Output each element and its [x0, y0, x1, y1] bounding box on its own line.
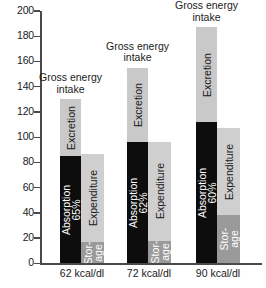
intake-bar[interactable]: ExcretionAbsorption60% [196, 27, 217, 263]
y-tick-label-text: 0 [4, 257, 34, 268]
segment-label-name: Expenditure [87, 170, 98, 226]
segment-label: Stor-age [150, 241, 170, 264]
x-tick-label: 62 kcal/dl [48, 268, 116, 279]
y-tick-mark [34, 111, 40, 112]
segment-excretion[interactable]: Excretion [127, 68, 148, 142]
y-tick-label: 60 [0, 182, 34, 193]
segment-absorption[interactable]: Absorption65% [60, 156, 81, 263]
y-tick-mark [34, 137, 40, 138]
group-title: Gross energyintake [165, 0, 249, 23]
y-tick-label-text: 60 [4, 182, 34, 193]
segment-label-name: Absorption [61, 185, 71, 235]
segment-excretion[interactable]: Excretion [196, 27, 217, 122]
y-tick-mark [34, 10, 40, 11]
y-tick-label-text: 20 [4, 232, 34, 243]
x-tick-label: 72 kcal/dl [115, 268, 183, 279]
segment-absorption[interactable]: Absorption60% [196, 122, 217, 263]
energy-balance-chart: 200180160140120100806040200 ExcretionAbs… [0, 0, 266, 288]
y-tick-label-text: 200 [4, 5, 34, 16]
x-tick-label: 90 kcal/dl [184, 268, 252, 279]
y-tick-mark [34, 187, 40, 188]
intake-bar[interactable]: ExcretionAbsorption62% [127, 68, 148, 264]
bar-group: ExcretionAbsorption65%ExpenditureStor-ag… [60, 99, 104, 263]
segment-excretion[interactable]: Excretion [60, 99, 81, 156]
segment-label: Stor-age [219, 228, 239, 251]
segment-label-name: Absorption [197, 168, 207, 218]
y-tick-label: 80 [0, 156, 34, 167]
segment-label-percent: 60% [207, 168, 217, 218]
segment-storage[interactable]: Stor-age [148, 241, 171, 264]
segment-expenditure[interactable]: Expenditure [148, 142, 171, 240]
segment-label: Expenditure [154, 163, 165, 219]
segment-label-line1: Stor- [150, 241, 160, 264]
segment-label-name: Excretion [65, 106, 76, 150]
bar-group: ExcretionAbsorption62%ExpenditureStor-ag… [127, 68, 171, 264]
segment-label: Absorption65% [61, 185, 81, 235]
y-tick-label-text: 120 [4, 106, 34, 117]
x-axis-line [40, 263, 262, 265]
y-tick-label: 20 [0, 232, 34, 243]
y-tick-label-text: 160 [4, 55, 34, 66]
y-tick-mark [34, 237, 40, 238]
segment-label-name: Excretion [201, 53, 212, 97]
segment-label: Excretion [132, 83, 143, 127]
segment-label-line2: age [229, 228, 239, 251]
y-tick-mark [34, 36, 40, 37]
segment-label-line2: age [93, 242, 103, 263]
group-title: Gross energyintake [29, 72, 113, 95]
y-tick-label: 0 [0, 257, 34, 268]
segment-label: Expenditure [223, 144, 234, 200]
segment-label-line1: Stor- [83, 242, 93, 263]
y-tick-label-text: 100 [4, 131, 34, 142]
segment-label-name: Expenditure [223, 144, 234, 200]
segment-label-percent: 65% [71, 185, 81, 235]
y-axis-line [40, 11, 42, 264]
y-tick-mark [34, 212, 40, 213]
segment-label: Excretion [65, 106, 76, 150]
y-tick-mark [34, 61, 40, 62]
y-tick-mark [34, 162, 40, 163]
segment-storage[interactable]: Stor-age [217, 215, 240, 263]
group-title-line2: intake [165, 12, 249, 24]
segment-label-name: Excretion [132, 83, 143, 127]
segment-label-line1: Stor- [219, 228, 229, 251]
segment-expenditure[interactable]: Expenditure [81, 154, 104, 242]
segment-label: Expenditure [87, 170, 98, 226]
intake-bar[interactable]: ExcretionAbsorption65% [60, 99, 81, 263]
y-tick-label: 200 [0, 5, 34, 16]
y-tick-mark [34, 263, 40, 264]
segment-absorption[interactable]: Absorption62% [127, 142, 148, 263]
y-tick-label: 40 [0, 207, 34, 218]
y-tick-label: 160 [0, 55, 34, 66]
segment-label-name: Absorption [128, 178, 138, 228]
segment-label: Absorption62% [128, 178, 148, 228]
y-tick-label-text: 40 [4, 207, 34, 218]
y-tick-label-text: 180 [4, 30, 34, 41]
y-tick-label: 180 [0, 30, 34, 41]
group-title-line2: intake [96, 52, 180, 64]
segment-label-name: Expenditure [154, 163, 165, 219]
segment-label: Excretion [201, 53, 212, 97]
expenditure-bar[interactable]: ExpenditureStor-age [217, 128, 240, 263]
y-tick-label: 100 [0, 131, 34, 142]
group-title: Gross energyintake [96, 41, 180, 64]
expenditure-bar[interactable]: ExpenditureStor-age [81, 154, 104, 264]
y-tick-label-text: 80 [4, 156, 34, 167]
segment-expenditure[interactable]: Expenditure [217, 128, 240, 215]
group-title-line2: intake [29, 84, 113, 96]
expenditure-bar[interactable]: ExpenditureStor-age [148, 142, 171, 263]
segment-label: Absorption60% [197, 168, 217, 218]
segment-storage[interactable]: Stor-age [81, 242, 104, 263]
segment-label: Stor-age [83, 242, 103, 263]
y-tick-label: 120 [0, 106, 34, 117]
segment-label-percent: 62% [138, 178, 148, 228]
segment-label-line2: age [160, 241, 170, 264]
bar-group: ExcretionAbsorption60%ExpenditureStor-ag… [196, 27, 240, 263]
